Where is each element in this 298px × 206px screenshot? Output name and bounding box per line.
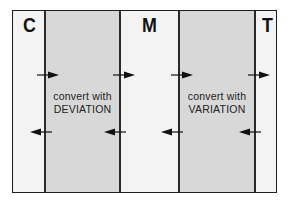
arrow-left-icon xyxy=(104,128,126,136)
variation-label: convert with VARIATION xyxy=(179,90,255,116)
deviation-label-line2: DEVIATION xyxy=(45,103,120,116)
variation-label-line2: VARIATION xyxy=(179,103,255,116)
variation-label-line1: convert with xyxy=(179,90,255,103)
magnetic-column-label: M xyxy=(142,13,157,37)
compass-column-label: C xyxy=(23,13,36,37)
arrow-right-icon xyxy=(248,71,270,79)
deviation-label: convert with DEVIATION xyxy=(45,90,120,116)
true-column-label: T xyxy=(262,13,273,37)
deviation-label-line1: convert with xyxy=(45,90,120,103)
arrow-left-icon xyxy=(239,128,261,136)
arrow-right-icon xyxy=(37,71,59,79)
conversion-diagram: C M T convert with DEVIATION convert wit… xyxy=(12,10,277,193)
arrow-left-icon xyxy=(161,128,183,136)
arrow-right-icon xyxy=(113,71,135,79)
arrow-left-icon xyxy=(30,128,52,136)
arrow-right-icon xyxy=(171,71,193,79)
